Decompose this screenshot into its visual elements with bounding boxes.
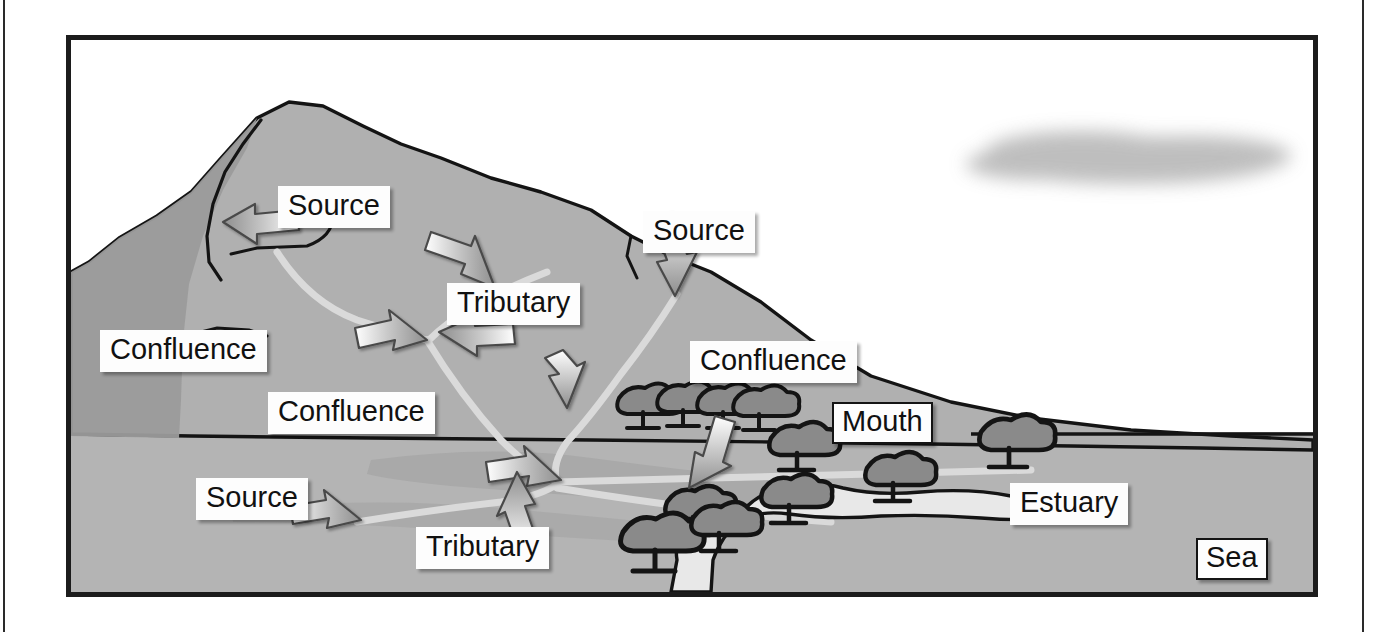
label-estuary: Estuary — [1010, 483, 1128, 525]
label-confluence-middle: Confluence — [268, 392, 435, 434]
label-source-ridge: Source — [643, 211, 755, 253]
page: Source Source Tributary Confluence Confl… — [0, 0, 1385, 632]
page-edge-rule-right — [1362, 0, 1364, 632]
label-tributary-upper: Tributary — [447, 283, 580, 325]
label-mouth: Mouth — [832, 402, 933, 444]
page-edge-rule-left — [3, 0, 5, 632]
label-tributary-lower: Tributary — [416, 527, 549, 569]
label-source-lower: Source — [196, 478, 308, 520]
label-confluence-upper: Confluence — [100, 330, 267, 372]
label-source-mountain: Source — [278, 186, 390, 228]
label-confluence-right: Confluence — [690, 341, 857, 383]
label-sea: Sea — [1196, 538, 1268, 580]
cloud-shape — [966, 131, 1291, 184]
